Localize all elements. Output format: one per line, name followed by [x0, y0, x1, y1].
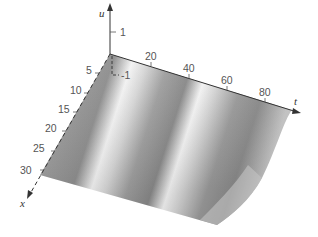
x-tick-15: 15 [58, 103, 70, 115]
u-tick-1: 1 [120, 26, 126, 38]
x-tick-5: 5 [86, 64, 92, 76]
x-tick-25: 25 [33, 142, 45, 154]
t-tick-40: 40 [183, 62, 195, 74]
t-axis-arrow-icon [292, 108, 301, 114]
t-tick-20: 20 [145, 50, 157, 62]
x-axis-label: x [19, 197, 25, 209]
x-tick-30: 30 [20, 164, 32, 176]
surface-shade [40, 54, 292, 225]
t-axis-label: t [294, 95, 298, 107]
u-axis-label: u [99, 7, 105, 19]
t-tick-60: 60 [221, 74, 233, 86]
x-tick-10: 10 [70, 84, 82, 96]
u-tick-neg1: -1 [121, 69, 130, 81]
x-axis-arrow-icon [27, 190, 33, 199]
x-tick-20: 20 [45, 122, 57, 134]
t-tick-80: 80 [259, 86, 271, 98]
u-axis-arrow-icon [107, 3, 113, 11]
surface [40, 54, 292, 225]
surface-plot: t 20 40 60 80 u 1 -1 x 5 10 15 20 25 30 [0, 0, 318, 237]
